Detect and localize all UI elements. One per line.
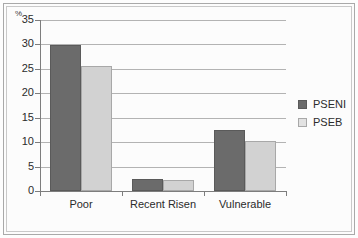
y-tick-label: 10 [8, 136, 34, 147]
x-tick-mark [122, 191, 123, 196]
bar [245, 141, 276, 191]
y-tick-label: 0 [8, 185, 34, 196]
legend-label: PSENI [313, 99, 346, 110]
x-tick-mark [204, 191, 205, 196]
y-tick-label: 20 [8, 87, 34, 98]
y-tick: 25 [0, 63, 34, 74]
bar [214, 130, 245, 191]
chart-legend: PSENIPSEB [298, 95, 346, 131]
x-tick-mark [40, 191, 41, 196]
bar [81, 66, 112, 191]
legend-item: PSEB [298, 113, 346, 131]
y-tick: 5 [0, 161, 34, 172]
bar [50, 45, 81, 191]
legend-swatch-icon [298, 100, 307, 109]
y-tick-label: 15 [8, 112, 34, 123]
chart-figure: % 05101520253035 PoorRecent RisenVulnera… [0, 0, 358, 238]
bar [132, 179, 163, 191]
x-tick-mark [286, 191, 287, 196]
x-axis-label: Vulnerable [204, 198, 286, 210]
y-tick: 20 [0, 87, 34, 98]
legend-label: PSEB [313, 117, 342, 128]
x-axis-label: Recent Risen [122, 198, 204, 210]
y-tick: 35 [0, 14, 34, 25]
y-tick: 30 [0, 38, 34, 49]
gridline [40, 20, 286, 21]
x-axis-label: Poor [40, 198, 122, 210]
y-tick-label: 25 [8, 63, 34, 74]
y-tick-label: 30 [8, 38, 34, 49]
y-tick: 10 [0, 136, 34, 147]
x-axis-line [40, 191, 287, 192]
y-tick: 15 [0, 112, 34, 123]
y-tick: 0 [0, 185, 34, 196]
legend-item: PSENI [298, 95, 346, 113]
y-axis-line [40, 20, 41, 192]
y-tick-label: 35 [8, 14, 34, 25]
legend-swatch-icon [298, 118, 307, 127]
y-tick-label: 5 [8, 161, 34, 172]
bar [163, 180, 194, 191]
